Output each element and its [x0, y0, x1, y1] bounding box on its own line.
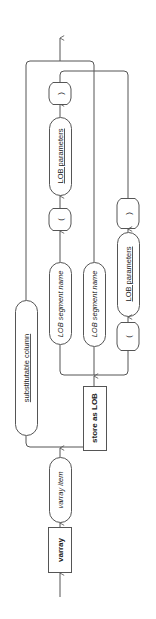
paren-close-label-2: ) [124, 212, 133, 215]
lob-segment-name-node-2: LOB segment name [84, 263, 106, 347]
paren-open-label-2: ( [124, 335, 133, 338]
lob-parameters-label-1: LOB parameters [56, 128, 65, 183]
substitutable-column-node: substitutable column [16, 301, 38, 436]
lob-segment-name-node-1: LOB segment name [50, 263, 72, 345]
substitutable-column-label: substitutable column [22, 334, 31, 402]
varray-keyword-box: varray [49, 528, 72, 573]
lob-parameters-label-2: LOB parameters [124, 246, 133, 301]
paren-open-label-1: ( [56, 218, 65, 221]
lob-segment-name-label-2: LOB segment name [90, 271, 99, 338]
paren-open-node-2: ( [117, 323, 139, 351]
paren-close-label-1: ) [56, 92, 65, 95]
syntax-diagram: varray varray item substitutable column … [0, 0, 156, 619]
paren-close-node-1: ) [49, 83, 71, 105]
varray-item-label: varray item [56, 471, 65, 508]
store-as-lob-label: store as LOB [90, 393, 99, 443]
store-as-lob-box: store as LOB [84, 387, 107, 451]
varray-item-node: varray item [50, 458, 72, 523]
paren-close-node-2: ) [117, 199, 139, 229]
paren-open-node-1: ( [49, 209, 71, 231]
lob-segment-name-label-1: LOB segment name [56, 271, 65, 338]
lob-parameters-node-2: LOB parameters [118, 233, 140, 317]
varray-keyword-label: varray [56, 537, 65, 562]
lob-parameters-node-1: LOB parameters [50, 118, 72, 196]
